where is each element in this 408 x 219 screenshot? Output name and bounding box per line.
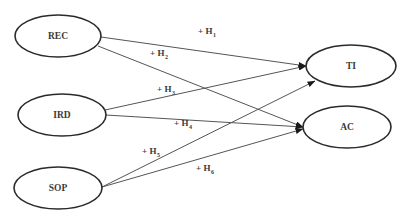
nodes-layer: RECIRDSOPTIAC xyxy=(14,15,396,209)
node-ti: TI xyxy=(306,45,396,87)
node-label: SOP xyxy=(49,183,68,193)
hypothesis-label-h3: + H3 xyxy=(157,84,175,96)
path-model-diagram: + H1+ H2+ H3+ H4+ H5+ H6 RECIRDSOPTIAC xyxy=(0,0,408,219)
edge-arrow xyxy=(102,129,303,187)
hypothesis-label-h6: + H6 xyxy=(196,163,214,175)
edge-rec-to-ac: + H2 xyxy=(98,46,303,127)
edge-ird-to-ac: + H4 xyxy=(106,115,303,130)
edge-arrow xyxy=(101,37,306,66)
edge-rec-to-ti: + H1 xyxy=(101,26,306,66)
hypothesis-label-h1: + H1 xyxy=(198,26,216,38)
edge-sop-to-ac: + H6 xyxy=(102,129,303,187)
node-label: REC xyxy=(48,31,68,41)
edge-ird-to-ti: + H3 xyxy=(105,66,306,110)
node-ac: AC xyxy=(303,106,391,148)
hypothesis-label-h5: + H5 xyxy=(142,146,160,158)
hypothesis-label-h2: + H2 xyxy=(150,48,168,60)
edge-arrow xyxy=(106,115,303,127)
node-label: IRD xyxy=(53,110,71,120)
edge-arrow xyxy=(105,66,306,110)
node-label: TI xyxy=(346,61,356,71)
edges-layer: + H1+ H2+ H3+ H4+ H5+ H6 xyxy=(98,26,315,187)
node-label: AC xyxy=(340,122,354,132)
node-ird: IRD xyxy=(18,94,106,136)
edge-arrow xyxy=(98,46,303,127)
node-rec: REC xyxy=(15,15,101,57)
node-sop: SOP xyxy=(14,167,102,209)
